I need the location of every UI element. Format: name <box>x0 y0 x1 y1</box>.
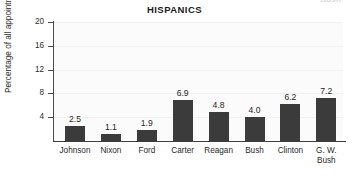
y-tick-mark <box>48 117 53 118</box>
hispanics-bar-chart: Bush HISPANICS Percentage of all appoint… <box>0 0 349 183</box>
y-axis-label: Percentage of all appointments <box>4 0 13 97</box>
category-label-line: Ford <box>127 146 167 156</box>
category-label-line: Carter <box>163 146 203 156</box>
bar[interactable] <box>245 117 265 141</box>
category-label-line: Bush <box>235 146 275 156</box>
x-axis-category-label: Bush <box>235 146 275 156</box>
category-label-line: Clinton <box>270 146 310 156</box>
bar-value-label: 6.9 <box>166 89 200 98</box>
gridline <box>53 46 343 47</box>
y-tick-mark <box>48 70 53 71</box>
y-tick-label: 4 <box>22 113 44 121</box>
bar[interactable] <box>209 112 229 141</box>
bar[interactable] <box>173 100 193 141</box>
bar-value-label: 2.5 <box>58 115 92 124</box>
bar-value-label: 6.2 <box>273 93 307 102</box>
category-label-line: Nixon <box>91 146 131 156</box>
x-axis-category-label: Nixon <box>91 146 131 156</box>
x-axis-category-label: Ford <box>127 146 167 156</box>
y-axis-spine <box>53 21 54 142</box>
bar[interactable] <box>65 126 85 141</box>
y-tick-mark <box>48 46 53 47</box>
y-tick-label: 8 <box>22 89 44 97</box>
bar[interactable] <box>280 104 300 141</box>
category-label-line: G. W. <box>306 146 346 156</box>
bar-value-label: 7.2 <box>309 87 343 96</box>
y-tick-label: 16 <box>22 42 44 50</box>
x-axis-category-label: Johnson <box>55 146 95 156</box>
x-axis-category-label: G. W.Bush <box>306 146 346 166</box>
x-axis-category-label: Carter <box>163 146 203 156</box>
bar-value-label: 4.0 <box>238 106 272 115</box>
bar[interactable] <box>316 98 336 141</box>
x-axis-category-label: Clinton <box>270 146 310 156</box>
x-axis-category-label: Reagan <box>199 146 239 156</box>
bar-value-label: 1.9 <box>130 119 164 128</box>
chart-title: HISPANICS <box>0 4 349 15</box>
category-label-line: Johnson <box>55 146 95 156</box>
category-label-line: Reagan <box>199 146 239 156</box>
y-tick-mark <box>48 22 53 23</box>
y-tick-label: 12 <box>22 66 44 74</box>
category-label-line: Bush <box>306 156 346 166</box>
bar[interactable] <box>137 130 157 141</box>
bar-value-label: 1.1 <box>94 123 128 132</box>
bar-value-label: 4.8 <box>202 101 236 110</box>
bar[interactable] <box>101 134 121 141</box>
x-axis-spine <box>53 141 346 142</box>
gridline <box>53 22 343 23</box>
y-tick-mark <box>48 93 53 94</box>
gridline <box>53 70 343 71</box>
y-tick-label: 20 <box>22 18 44 26</box>
